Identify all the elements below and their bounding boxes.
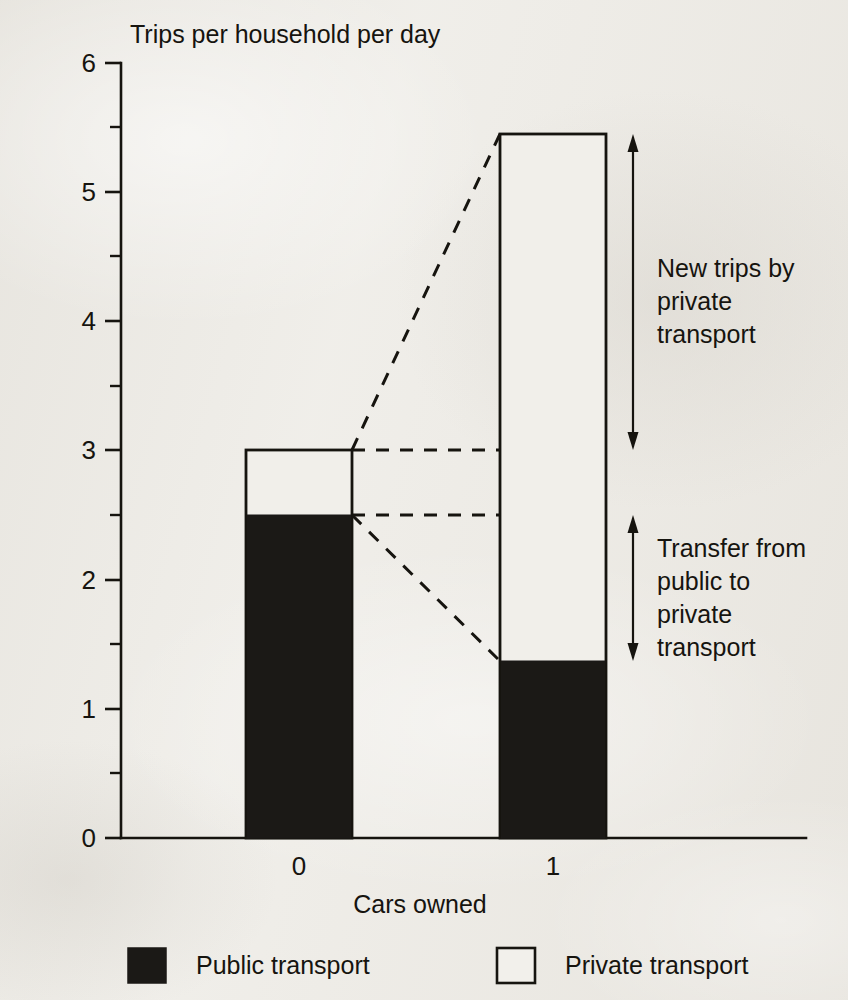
x-tick-label-1: 1 [546,851,560,881]
legend-label-public: Public transport [196,951,370,979]
y-axis-tick-labels: 6 5 4 3 2 1 0 [82,48,96,853]
connector-top-diagonal [352,134,500,450]
annotation-label-new-trips: New trips by private transport [657,254,795,348]
dashed-connectors [352,134,500,661]
y-tick-label-1: 1 [82,694,96,724]
x-tick-label-0: 0 [292,851,306,881]
trip-generation-chart: Trips per household per day 6 5 [0,0,848,1000]
annotation-new-trips-line-1: New trips by [657,254,795,282]
bar-group-cars-1 [500,134,606,838]
legend-swatch-private [497,948,535,983]
y-tick-label-6: 6 [82,48,96,78]
bar-0-public-segment [248,515,351,838]
arrow-head-down-transfer [628,643,639,661]
annotation-new-trips-line-2: private [657,287,732,315]
x-axis-tick-labels: 0 1 [292,851,560,881]
bar-group-cars-0 [246,450,352,838]
legend-swatch-public [128,948,166,983]
y-tick-label-0: 0 [82,823,96,853]
bar-1-public-segment [502,661,605,838]
arrow-head-up-transfer [628,515,639,533]
annotation-arrow-new-trips [628,134,639,450]
annotation-label-transfer: Transfer from public to private transpor… [657,534,806,661]
y-tick-label-2: 2 [82,565,96,595]
y-tick-label-3: 3 [82,435,96,465]
annotation-new-trips-line-3: transport [657,320,756,348]
annotation-transfer-line-3: private [657,600,732,628]
annotation-transfer-line-1: Transfer from [657,534,806,562]
y-tick-label-5: 5 [82,177,96,207]
arrow-head-up-new-trips [628,134,639,152]
y-axis-major-ticks [105,63,121,838]
chart-figure: Trips per household per day 6 5 [0,0,848,1000]
chart-legend: Public transport Private transport [128,948,748,983]
x-axis-title: Cars owned [353,890,486,918]
connector-public-diagonal [352,515,500,661]
annotation-arrow-transfer [628,515,639,661]
annotation-transfer-line-2: public to [657,567,750,595]
legend-label-private: Private transport [565,951,748,979]
chart-title: Trips per household per day [130,20,441,48]
y-tick-label-4: 4 [82,306,96,336]
arrow-head-down-new-trips [628,432,639,450]
annotation-transfer-line-4: transport [657,633,756,661]
